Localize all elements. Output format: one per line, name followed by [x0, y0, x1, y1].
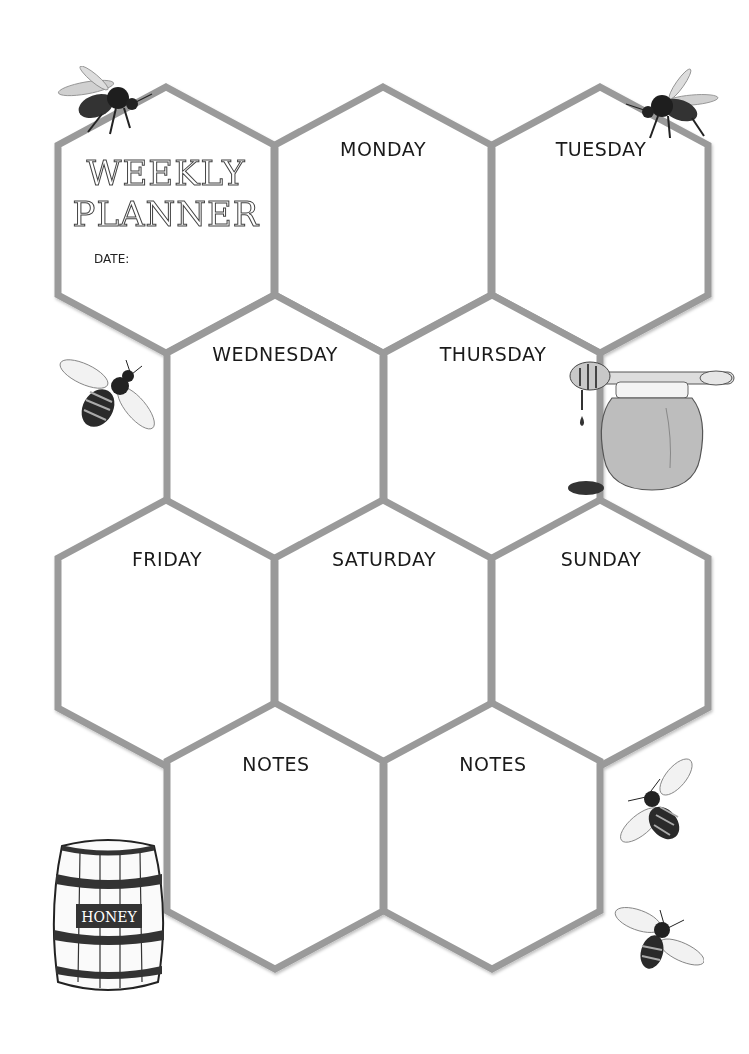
hex-notes-1[interactable] — [167, 703, 383, 969]
label-notes-1: NOTES — [176, 753, 376, 775]
hex-notes-2[interactable] — [384, 703, 600, 969]
title-planner: PLANNER — [66, 193, 266, 235]
bee-illustration-lower-right — [618, 755, 702, 847]
date-label: DATE: — [94, 252, 129, 266]
label-monday: MONDAY — [283, 138, 483, 160]
honey-barrel-illustration: HONEY — [48, 832, 170, 998]
label-friday: FRIDAY — [67, 548, 267, 570]
title-weekly: WEEKLY — [66, 152, 266, 194]
bee-illustration-left — [56, 352, 164, 436]
barrel-label: HONEY — [81, 909, 137, 925]
bee-illustration-top-left — [56, 66, 156, 141]
bee-illustration-bottom-right — [612, 902, 704, 972]
label-notes-2: NOTES — [393, 753, 593, 775]
label-tuesday: TUESDAY — [501, 138, 701, 160]
bee-illustration-top-right — [622, 66, 722, 141]
label-saturday: SATURDAY — [284, 548, 484, 570]
label-sunday: SUNDAY — [501, 548, 701, 570]
label-wednesday: WEDNESDAY — [175, 343, 375, 365]
label-thursday: THURSDAY — [393, 343, 593, 365]
honey-jar-illustration — [566, 358, 738, 498]
weekly-planner-page: WEEKLY PLANNER DATE: MONDAY TUESDAY WEDN… — [0, 0, 749, 1054]
